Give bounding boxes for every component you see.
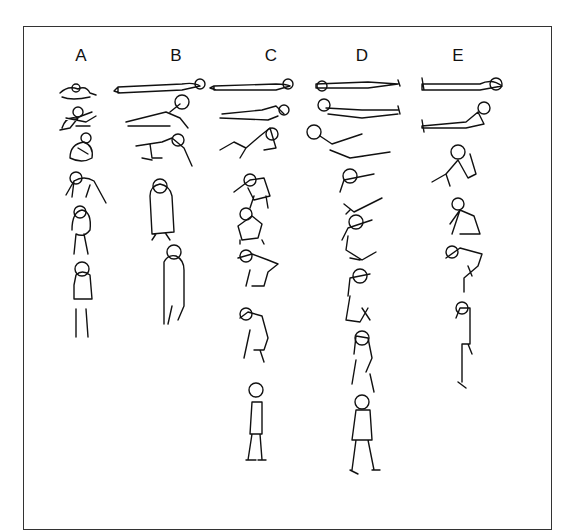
column-c-figures [210,79,293,460]
column-a-figures [60,84,106,337]
column-e-figures [422,78,502,388]
pose-illustrations [0,0,567,531]
column-b-figures [114,79,205,324]
column-d-figures [307,80,400,474]
